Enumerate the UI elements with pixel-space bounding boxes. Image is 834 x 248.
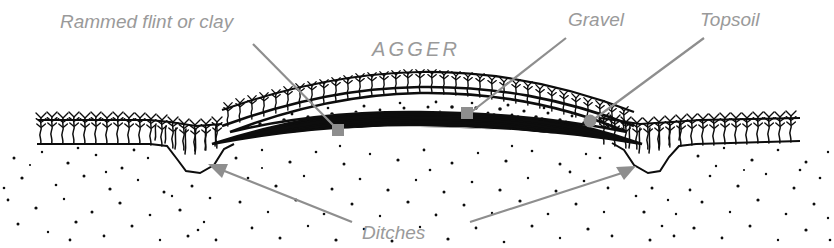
cross-section-drawing: Rammed flint or clay AGGER Gravel Topsoi… (0, 0, 834, 248)
label-topsoil: Topsoil (700, 9, 760, 30)
label-ditches: Ditches (362, 222, 426, 243)
label-rammed-flint-or-clay: Rammed flint or clay (60, 11, 235, 32)
marker-topsoil (584, 115, 597, 128)
label-agger: AGGER (371, 38, 460, 60)
label-gravel: Gravel (568, 9, 625, 30)
marker-rammed-flint (332, 124, 344, 136)
leader-topsoil (593, 38, 704, 120)
marker-gravel (461, 107, 473, 119)
roman-road-cross-section-figure: Rammed flint or clay AGGER Gravel Topsoi… (0, 0, 834, 248)
